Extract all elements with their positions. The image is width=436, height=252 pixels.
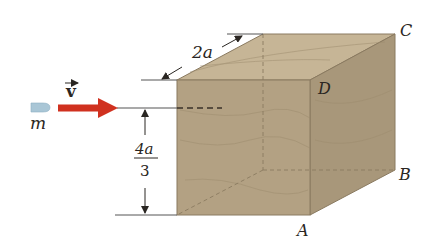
label-height-denominator: 3 — [140, 162, 150, 180]
depth-arrow-upper — [222, 36, 242, 47]
label-corner-a: A — [295, 221, 309, 240]
cube-bullet-diagram: 2a v m 4a 3 D C B A — [0, 0, 436, 252]
label-2a: 2a — [191, 42, 213, 62]
label-corner-d: D — [317, 79, 331, 98]
label-height-numerator: 4a — [134, 140, 154, 158]
depth-arrow-lower — [162, 67, 182, 79]
label-velocity: v — [65, 81, 77, 101]
bullet-icon — [31, 103, 50, 112]
velocity-arrow — [58, 98, 118, 118]
label-corner-b: B — [398, 165, 411, 184]
cube-front-face — [177, 80, 310, 215]
label-mass: m — [30, 113, 46, 133]
label-corner-c: C — [400, 21, 412, 40]
